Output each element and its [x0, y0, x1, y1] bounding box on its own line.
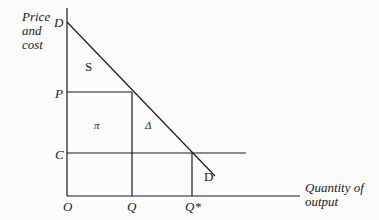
x-axis-title-line-1: Quantity of — [305, 181, 364, 195]
x-axis-title: Quantity of output — [305, 181, 364, 209]
y-axis-title: Price and cost — [22, 10, 50, 52]
label-d-intercept: D — [54, 16, 63, 29]
label-quantity-qstar: Q* — [185, 200, 201, 213]
label-profit-pi: π — [94, 120, 100, 131]
label-surplus-s: S — [85, 60, 92, 73]
label-demand-d: D — [204, 170, 213, 183]
y-axis-title-line-3: cost — [22, 38, 50, 52]
x-axis-title-line-2: output — [305, 195, 364, 209]
y-axis-title-line-2: and — [22, 24, 50, 38]
label-cost-c: C — [55, 148, 64, 161]
label-origin-o: O — [63, 200, 72, 213]
y-axis-title-line-1: Price — [22, 10, 50, 24]
label-deadweight-delta: Δ — [145, 120, 151, 131]
label-price-p: P — [55, 87, 63, 100]
label-quantity-q: Q — [127, 200, 136, 213]
